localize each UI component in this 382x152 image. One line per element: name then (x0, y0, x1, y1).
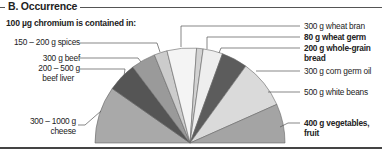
label-vegetables-name: fruit (304, 129, 319, 138)
label-corn-oil: 300 g corn germ oil (304, 67, 371, 76)
label-beef-liver-name: beef liver (42, 74, 74, 83)
label-vegetables-qty: 400 g vegetables, (304, 119, 369, 128)
leader-wheat-bran (181, 26, 300, 47)
leader-bread (219, 48, 300, 53)
label-bread-name: bread (304, 54, 326, 63)
label-beef-liver-qty: 200 – 500 g (38, 64, 80, 73)
label-cheese-name: cheese (50, 127, 76, 136)
label-cheese-qty: 300 – 1000 g (30, 117, 76, 126)
leader-spices (80, 43, 160, 52)
label-wheat-germ: 80 g wheat germ (304, 33, 366, 42)
label-white-beans: 500 g white beans (304, 88, 368, 97)
label-bread-qty: 200 g whole-grain (304, 44, 371, 53)
leader-beef-liver (80, 69, 125, 76)
label-spices: 150 – 200 g spices (14, 38, 80, 47)
footer-rule (0, 147, 382, 149)
label-wheat-bran: 300 g wheat bran (304, 22, 365, 31)
leader-beef (80, 58, 141, 62)
leader-wheat-germ (207, 37, 300, 49)
label-beef: 300 g beef (43, 54, 80, 63)
